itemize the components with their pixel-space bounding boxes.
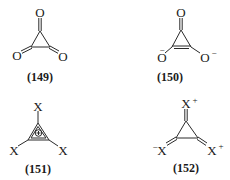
atom-top: X xyxy=(181,96,191,111)
compound-label: (150) xyxy=(157,70,183,84)
structure-150: O O − O − (150) xyxy=(157,5,217,84)
atom-top: O xyxy=(176,5,185,20)
ring-bond xyxy=(176,121,186,138)
charge-top: + xyxy=(192,95,197,105)
double-bond xyxy=(22,48,32,53)
ring-bond xyxy=(28,123,38,140)
ring-bond xyxy=(31,31,40,47)
double-bond xyxy=(21,46,31,51)
ring-bond xyxy=(38,123,49,140)
atom-left: O xyxy=(12,48,21,63)
compound-label: (149) xyxy=(27,70,53,84)
atom-left: X xyxy=(9,143,19,158)
ring-bond xyxy=(40,31,50,47)
atom-right: O xyxy=(200,50,209,65)
atom-right: X xyxy=(207,143,217,158)
single-bond xyxy=(49,140,58,146)
chemical-structures-diagram: O O O (149) O O − O − (150) xyxy=(0,0,230,180)
atom-right: O xyxy=(58,49,67,64)
atom-left: X xyxy=(157,143,167,158)
double-bond xyxy=(166,137,176,143)
structure-152: X + − X X + (152) xyxy=(152,95,223,175)
single-bond xyxy=(191,47,200,53)
charge-right: + xyxy=(218,141,223,151)
compound-label: (152) xyxy=(173,161,199,175)
double-bond xyxy=(197,139,206,145)
atom-top: O xyxy=(35,5,44,20)
ring-bond xyxy=(172,30,181,47)
double-bond xyxy=(167,139,177,145)
single-bond xyxy=(18,140,28,146)
atom-top: X xyxy=(33,99,43,114)
double-bond xyxy=(49,48,58,53)
charge-right: − xyxy=(211,48,216,58)
double-bond xyxy=(198,137,207,143)
compound-label: (151) xyxy=(25,162,51,176)
atom-right: X xyxy=(58,143,68,158)
charge-left: − xyxy=(159,45,164,55)
ring-bond xyxy=(186,121,198,138)
structure-151: X X X (151) xyxy=(9,99,68,176)
ring-bond xyxy=(181,30,191,47)
structure-149: O O O (149) xyxy=(12,5,67,84)
